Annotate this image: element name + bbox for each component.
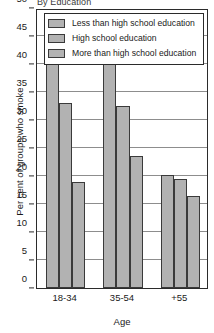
y-axis-tick-label: 30 — [16, 105, 27, 116]
legend-item: Less than high school education — [48, 16, 200, 31]
x-axis-tick-labels: 18-3435-54+55 — [36, 292, 208, 306]
y-axis-tick-label: 0 — [22, 273, 27, 284]
y-axis-tick — [29, 175, 34, 176]
y-axis-tick-labels: 05101520253035404550 — [0, 9, 34, 289]
y-axis-tick-label: 10 — [16, 217, 27, 228]
chart-title: By Education — [37, 0, 91, 7]
y-axis-tick-label: 20 — [16, 161, 27, 172]
bar — [72, 182, 85, 288]
y-axis-tick-label: 35 — [16, 77, 27, 88]
bar — [46, 61, 59, 288]
y-axis-tick — [29, 35, 34, 36]
bar-chart: By Education Per cent of groups who smok… — [0, 0, 214, 333]
bar — [103, 54, 116, 288]
legend-item-label: High school education — [72, 34, 157, 43]
bar — [59, 103, 72, 288]
y-axis-tick-label: 5 — [22, 245, 27, 256]
x-axis-tick-label: 35-54 — [110, 292, 134, 303]
legend-item-label: More than high school education — [72, 49, 196, 58]
y-axis-tick — [29, 147, 34, 148]
y-axis-tick-label: 40 — [16, 49, 27, 60]
legend-swatch-icon — [48, 49, 65, 58]
y-axis-tick-label: 25 — [16, 133, 27, 144]
y-axis-tick-label: 15 — [16, 189, 27, 200]
bar — [130, 156, 143, 288]
bar — [174, 179, 187, 288]
y-axis-tick — [29, 259, 34, 260]
legend-swatch-icon — [48, 34, 65, 43]
y-axis-tick — [29, 287, 34, 288]
legend-item-label: Less than high school education — [72, 19, 195, 28]
bar — [187, 196, 200, 288]
y-axis-tick — [29, 91, 34, 92]
y-axis-tick — [29, 203, 34, 204]
y-axis-tick — [29, 63, 34, 64]
legend: Less than high school education High sch… — [44, 13, 204, 65]
legend-item: High school education — [48, 31, 200, 46]
x-axis-tick-label: 18-34 — [53, 292, 77, 303]
x-axis-tick-label: +55 — [171, 292, 187, 303]
bar — [116, 106, 129, 288]
legend-swatch-icon — [48, 19, 65, 28]
y-axis-tick — [29, 231, 34, 232]
y-axis-tick — [29, 119, 34, 120]
legend-item: More than high school education — [48, 46, 200, 61]
y-axis-tick-label: 50 — [16, 0, 27, 4]
x-axis-title: Age — [36, 316, 208, 327]
bar — [161, 175, 174, 288]
y-axis-tick-label: 45 — [16, 21, 27, 32]
y-axis-tick — [29, 7, 34, 8]
